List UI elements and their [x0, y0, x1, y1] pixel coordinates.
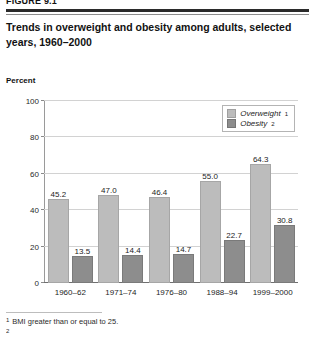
- bar-overweight-1971–74: 47.0: [98, 195, 119, 283]
- y-axis-tick: [41, 246, 44, 247]
- y-axis-tick: [41, 173, 44, 174]
- bar-overweight-1976–80: 46.4: [149, 197, 170, 283]
- bar-overweight-1960–62: 45.2: [48, 199, 69, 283]
- footnote-2-clipped: 2: [6, 327, 309, 333]
- legend-label-obesity: Obesity: [240, 119, 267, 128]
- footnote-1-mark: 1: [6, 316, 9, 327]
- bar-chart: 020406080100 45.213.547.014.446.414.755.…: [16, 95, 304, 300]
- x-axis-tick-label: 1976–80: [146, 285, 197, 300]
- bar-value-label: 64.3: [253, 155, 269, 164]
- footnote-1: 1 BMI greater than or equal to 25.: [6, 316, 309, 327]
- y-axis-tick-label: 40: [30, 206, 39, 215]
- legend-item-overweight: Overweight1: [227, 109, 288, 118]
- bar-group: 45.213.5: [45, 101, 96, 283]
- y-axis-tick-label: 60: [30, 169, 39, 178]
- bar-obesity-1999–2000: 30.8: [274, 225, 295, 283]
- bar-value-label: 30.8: [277, 216, 293, 225]
- bar-obesity-1976–80: 14.7: [173, 254, 194, 283]
- bar-value-label: 46.4: [152, 188, 168, 197]
- x-axis-tick-label: 1988–94: [197, 285, 248, 300]
- y-axis-tick: [41, 136, 44, 137]
- chart-legend: Overweight1 Obesity2: [222, 105, 295, 132]
- x-axis-tick-label: 1960–62: [45, 285, 96, 300]
- bar-group: 47.014.4: [96, 101, 147, 283]
- y-axis-tick: [41, 282, 44, 283]
- header-rule-thick: [6, 9, 309, 12]
- y-axis-tick-label: 80: [30, 133, 39, 142]
- bar-obesity-1960–62: 13.5: [72, 256, 93, 283]
- y-axis-tick-label: 100: [26, 97, 39, 106]
- x-axis-tick-labels: 1960–621971–741976–801988–941999–2000: [45, 285, 298, 300]
- legend-footnote-mark-overweight: 1: [285, 111, 288, 117]
- x-axis-tick-label: 1999–2000: [247, 285, 298, 300]
- bar-obesity-1971–74: 14.4: [122, 255, 143, 283]
- figure-title: Trends in overweight and obesity among a…: [6, 20, 303, 50]
- footnotes: 1 BMI greater than or equal to 25. 2: [6, 316, 309, 333]
- bar-group: 46.414.7: [146, 101, 197, 283]
- bar-value-label: 22.7: [226, 231, 242, 240]
- y-axis-title: Percent: [6, 76, 35, 85]
- figure-number: FIGURE 9.1: [6, 0, 57, 6]
- y-axis-tick-label: 0: [35, 279, 39, 288]
- footnote-1-text: BMI greater than or equal to 25.: [12, 316, 118, 327]
- bar-overweight-1999–2000: 64.3: [250, 164, 271, 283]
- legend-swatch-obesity: [227, 119, 236, 128]
- bar-overweight-1988–94: 55.0: [200, 181, 221, 283]
- bar-value-label: 45.2: [51, 190, 67, 199]
- footnote-rule: [6, 312, 102, 313]
- bar-value-label: 47.0: [101, 186, 117, 195]
- bar-value-label: 14.4: [125, 246, 141, 255]
- y-axis-tick-label: 20: [30, 242, 39, 251]
- bar-value-label: 55.0: [202, 172, 218, 181]
- bar-value-label: 13.5: [75, 247, 91, 256]
- x-axis-tick-label: 1971–74: [96, 285, 147, 300]
- legend-item-obesity: Obesity2: [227, 119, 288, 128]
- legend-label-overweight: Overweight: [240, 109, 280, 118]
- legend-footnote-mark-obesity: 2: [271, 121, 274, 127]
- header-rule-thin: [6, 14, 309, 15]
- y-axis-tick: [41, 209, 44, 210]
- bar-value-label: 14.7: [176, 245, 192, 254]
- y-axis-tick: [41, 100, 44, 101]
- bar-obesity-1988–94: 22.7: [224, 240, 245, 283]
- legend-swatch-overweight: [227, 109, 236, 118]
